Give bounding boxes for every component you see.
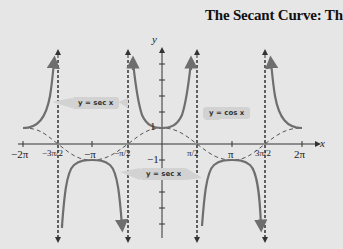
x-tick-label-negpi2: −π/2 (114, 148, 131, 158)
x-tick-label-neg2pi: −2π (11, 148, 28, 160)
x-tick-label-pi2: π/2 (187, 148, 199, 158)
x-axis-label: x (320, 137, 325, 149)
sec-callout-bottom: y = sec x (140, 168, 187, 180)
y-tick-label-neg1: −1 (147, 153, 159, 165)
y-tick-label-1: 1 (150, 120, 156, 132)
callout-pointers (52, 98, 220, 180)
cos-callout: y = cos x (203, 107, 250, 119)
x-tick-label-negpi: −π (84, 148, 96, 160)
y-axis-label: y (152, 33, 157, 45)
x-tick-label-2pi: 2π (294, 148, 305, 160)
x-tick-label-pi: π (228, 148, 234, 160)
x-tick-label-neg3pi2: −3π/2 (42, 148, 63, 158)
sec-callout-top: y = sec x (72, 97, 119, 109)
x-tick-label-3pi2: 3π/2 (255, 148, 271, 158)
